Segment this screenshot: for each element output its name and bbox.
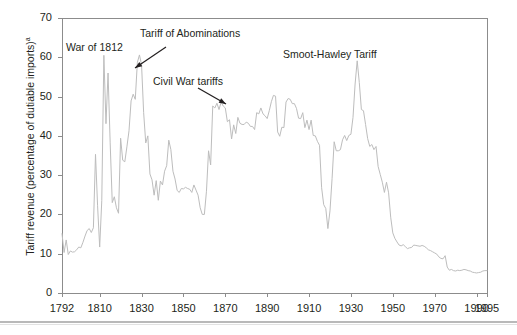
annotation-label-civil-war-tariffs: Civil War tariffs <box>153 75 223 87</box>
x-tick-label: 1810 <box>80 303 120 314</box>
x-tick-label: 1850 <box>163 303 203 314</box>
x-tick-label: 1830 <box>122 303 162 314</box>
y-tick-label: 40 <box>26 130 52 141</box>
y-tick-label: 20 <box>26 208 52 219</box>
footer-divider-light <box>0 324 517 325</box>
data-series-line <box>62 55 487 273</box>
x-tick-label: 1995 <box>467 303 507 314</box>
annotation-label-tariff-of-abominations: Tariff of Abominations <box>140 27 240 39</box>
plot-frame-rect <box>63 19 488 294</box>
x-tick-label: 1930 <box>331 303 371 314</box>
y-tick-label: 60 <box>26 51 52 62</box>
plot-frame <box>63 19 488 294</box>
x-tick-label: 1950 <box>373 303 413 314</box>
x-tick-label: 1890 <box>247 303 287 314</box>
x-tick-label: 1910 <box>289 303 329 314</box>
y-tick-label: 0 <box>26 287 52 298</box>
x-tick-label: 1970 <box>415 303 455 314</box>
x-tick-label: 1792 <box>42 303 82 314</box>
annotation-label-war-of-1812: War of 1812 <box>66 41 123 53</box>
annotation-arrowhead-civil-war-tariffs <box>219 98 226 104</box>
annotation-label-smoot-hawley-tariff: Smoot-Hawley Tariff <box>283 48 377 60</box>
y-tick-label: 30 <box>26 169 52 180</box>
footer-divider <box>0 321 517 323</box>
data-line <box>62 55 487 273</box>
tariff-chart-figure: Tariff revenue (percentage of dutiable i… <box>0 0 517 335</box>
y-tick-label: 50 <box>26 91 52 102</box>
y-tick-label: 70 <box>26 12 52 23</box>
x-tick-label: 1870 <box>205 303 245 314</box>
y-tick-label: 10 <box>26 248 52 259</box>
